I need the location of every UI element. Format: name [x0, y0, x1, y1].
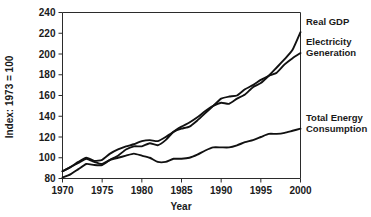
- data-series-group: [63, 32, 301, 177]
- y-axis-title: Index: 1973 = 100: [4, 55, 15, 138]
- series-label-total-energy-consumption-line1: Total Energy: [306, 112, 364, 123]
- y-tick-label: 140: [39, 111, 56, 122]
- y-tick-label: 100: [39, 152, 56, 163]
- line-chart: 80100120140160180200220240 1970197519801…: [0, 0, 371, 217]
- x-tick-label: 1970: [51, 185, 74, 196]
- series-label-electricity-generation-line2: Generation: [306, 47, 356, 58]
- x-axis-ticks: [63, 179, 301, 183]
- x-tick-label: 1980: [131, 185, 154, 196]
- plot-frame: [63, 13, 301, 179]
- y-axis-tick-labels: 80100120140160180200220240: [39, 7, 56, 184]
- y-tick-label: 180: [39, 69, 56, 80]
- y-axis-ticks: [59, 13, 63, 179]
- y-tick-label: 120: [39, 132, 56, 143]
- series-line-electricity-generation: [63, 53, 301, 171]
- y-tick-label: 240: [39, 7, 56, 18]
- x-tick-label: 2000: [289, 185, 312, 196]
- axis-spines: [63, 13, 301, 179]
- series-label-electricity-generation-line1: Electricity: [306, 36, 352, 47]
- x-tick-label: 1985: [170, 185, 193, 196]
- x-axis-title: Year: [170, 201, 191, 212]
- series-line-real-gdp: [63, 32, 301, 177]
- y-tick-label: 220: [39, 28, 56, 39]
- series-label-total-energy-consumption-line2: Consumption: [306, 123, 367, 134]
- y-tick-label: 80: [44, 173, 56, 184]
- series-label-real-gdp: Real GDP: [306, 16, 350, 27]
- x-tick-label: 1995: [250, 185, 273, 196]
- y-tick-label: 160: [39, 90, 56, 101]
- x-axis-tick-labels: 1970197519801985199019952000: [51, 185, 312, 196]
- x-tick-label: 1990: [210, 185, 233, 196]
- x-tick-label: 1975: [91, 185, 114, 196]
- chart-page: 80100120140160180200220240 1970197519801…: [0, 0, 371, 217]
- y-tick-label: 200: [39, 49, 56, 60]
